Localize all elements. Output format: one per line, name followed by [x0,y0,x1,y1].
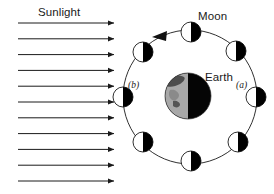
position-a-label: (a) [236,81,247,91]
earth-body [163,71,211,121]
moon-bottom [181,151,201,171]
moon-right-a [246,87,266,107]
diagram-canvas [0,0,274,194]
moon-label: Moon [198,11,227,23]
moon-lower-right [228,132,248,152]
position-b-label: (b) [128,81,139,91]
moon-upper-right [226,41,246,61]
moon-top [181,22,201,42]
earth-label: Earth [205,72,233,84]
moon-upper-left [133,42,153,62]
moon-phase-diagram: Sunlight Moon Earth (a) (b) [0,0,274,194]
moon-lower-left [133,132,153,152]
orbit-direction-arrow-icon [152,31,167,41]
sunlight-ray-group [18,23,114,181]
sunlight-label: Sunlight [38,7,80,19]
